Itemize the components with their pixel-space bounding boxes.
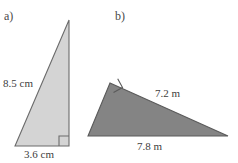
part-label-a: a) <box>4 10 13 22</box>
figure-canvas: a) b) 8.5 cm 3.6 cm 7.2 m 7.8 m <box>0 0 238 163</box>
geometry-figure <box>0 0 238 163</box>
dimension-label-a-hypotenuse: 8.5 cm <box>3 78 33 89</box>
part-label-b: b) <box>115 10 125 22</box>
dimension-label-b-hypotenuse: 7.2 m <box>155 88 180 99</box>
dimension-label-a-base: 3.6 cm <box>24 149 54 160</box>
dimension-label-b-base: 7.8 m <box>137 141 162 152</box>
